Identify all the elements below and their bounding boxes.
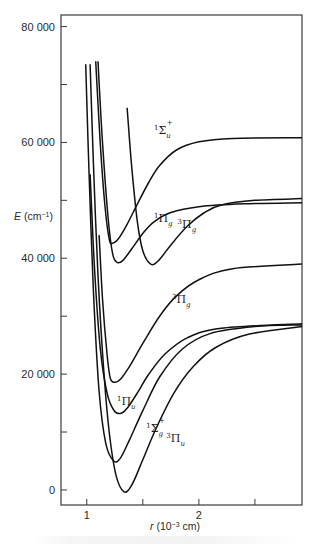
y-tick-label: 40 000 [21,252,55,264]
curve-label: 1Σu+ [154,119,173,140]
curve-label: 3Πu [166,432,185,448]
x-tick-label: 1 [84,509,90,521]
curves [86,61,302,492]
potential-energy-chart: 020 00040 00060 00080 000 12 1Σu+1Πg3Πg3… [0,0,313,548]
y-axis-label: E (cm−1) [14,210,53,222]
y-tick-label: 80 000 [21,21,55,33]
curve-3-u [90,64,302,492]
curve-label: 1Σg+ [146,417,165,438]
curve-label: 3Πg [172,293,191,309]
y-tick-label: 0 [49,484,55,496]
caption-remnant [30,536,300,544]
x-axis: 12 [84,499,255,521]
x-axis-label: r (10−3 cm) [150,520,200,532]
y-tick-label: 60 000 [21,136,55,148]
curve-label: 1Πg [154,212,173,228]
y-axis: 020 00040 00060 00080 000 [21,21,67,496]
y-tick-label: 20 000 [21,368,55,380]
curve-1-g [98,61,302,263]
